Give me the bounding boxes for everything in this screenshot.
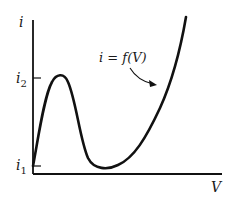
x-axis-label: V xyxy=(211,179,223,195)
y-axis-label: i xyxy=(19,14,23,30)
i2-label: i2 xyxy=(16,70,27,89)
curve-label: i = f(V) xyxy=(99,50,147,65)
i1-label: i1 xyxy=(16,157,27,176)
iv-curve xyxy=(33,17,186,168)
arrowhead-icon xyxy=(149,80,157,87)
iv-diagram: i i2 i1 i = f(V) V xyxy=(0,0,243,204)
